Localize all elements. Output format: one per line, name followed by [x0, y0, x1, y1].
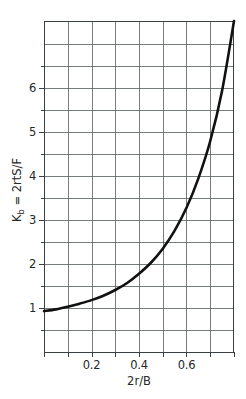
- y-axis-title: Kb = 2rtS/F: [10, 158, 26, 222]
- y-tick-label: 5: [29, 125, 36, 139]
- plot-background: [44, 21, 234, 352]
- y-tick-label: 1: [29, 301, 36, 315]
- y-tick-label: 4: [29, 169, 36, 183]
- x-tick-labels: 0.20.40.6: [83, 358, 196, 372]
- y-tick-labels: 123456: [29, 81, 36, 315]
- x-axis-title: 2r/B: [127, 374, 151, 388]
- x-tick-label: 0.6: [178, 358, 196, 372]
- chart-figure: 0.20.40.6 123456 2r/B Kb = 2rtS/F: [0, 0, 246, 399]
- y-tick-label: 6: [29, 81, 36, 95]
- y-axis-expression: = 2rtS/F: [10, 158, 24, 209]
- y-tick-label: 2: [29, 257, 36, 271]
- x-tick-label: 0.4: [130, 358, 148, 372]
- x-tick-label: 0.2: [83, 358, 101, 372]
- chart-canvas: 0.20.40.6 123456 2r/B Kb = 2rtS/F: [0, 0, 246, 399]
- y-tick-label: 3: [29, 213, 36, 227]
- y-axis-title-group: Kb = 2rtS/F: [10, 158, 26, 222]
